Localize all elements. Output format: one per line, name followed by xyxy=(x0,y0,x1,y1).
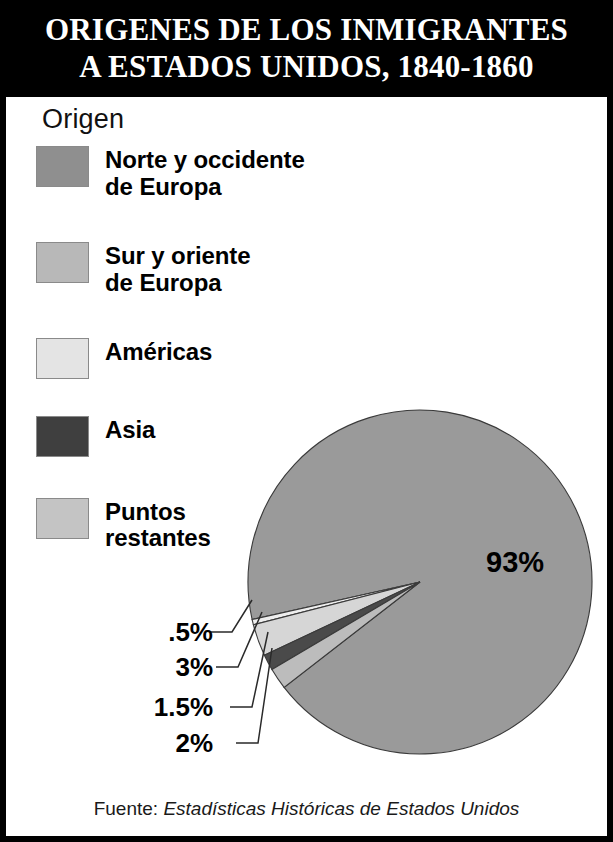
callout-labels: .5%3%1.5%2% xyxy=(154,617,213,758)
legend-heading: Origen xyxy=(42,104,366,135)
legend-item-4[interactable]: Asia xyxy=(36,416,366,457)
legend-rows: Norte y occidente de EuropaSur y oriente… xyxy=(36,146,366,552)
source-label: Fuente: xyxy=(94,798,164,819)
legend-item-3[interactable]: Américas xyxy=(36,338,366,379)
legend-item-label: Sur y oriente de Europa xyxy=(105,242,250,297)
slice-label-main: 93% xyxy=(486,546,544,578)
legend-item-label: Américas xyxy=(105,338,212,366)
legend-item-label: Norte y occidente de Europa xyxy=(105,146,305,201)
legend: Origen Norte y occidente de EuropaSur y … xyxy=(36,104,366,552)
legend-item-2[interactable]: Sur y oriente de Europa xyxy=(36,242,366,297)
legend-swatch-icon xyxy=(36,416,89,457)
legend-swatch-icon xyxy=(36,146,89,187)
slice-label-5: .5% xyxy=(168,617,213,647)
legend-item-1[interactable]: Norte y occidente de Europa xyxy=(36,146,366,201)
slice-label-15: 1.5% xyxy=(154,692,213,722)
legend-swatch-icon xyxy=(36,498,89,539)
legend-swatch-icon xyxy=(36,338,89,379)
legend-swatch-icon xyxy=(36,242,89,283)
source-publication: Estadísticas Históricas de Estados Unido… xyxy=(163,798,519,819)
legend-item-5[interactable]: Puntos restantes xyxy=(36,498,366,553)
source-note: Fuente: Estadísticas Históricas de Estad… xyxy=(0,798,613,820)
slice-label-2: 2% xyxy=(175,728,213,758)
leader-line-1 xyxy=(210,600,252,632)
infographic-page: ORIGENES DE LOS INMIGRANTES A ESTADOS UN… xyxy=(0,0,613,842)
legend-item-label: Asia xyxy=(105,416,155,444)
legend-item-label: Puntos restantes xyxy=(105,498,211,553)
slice-label-3: 3% xyxy=(175,652,213,682)
